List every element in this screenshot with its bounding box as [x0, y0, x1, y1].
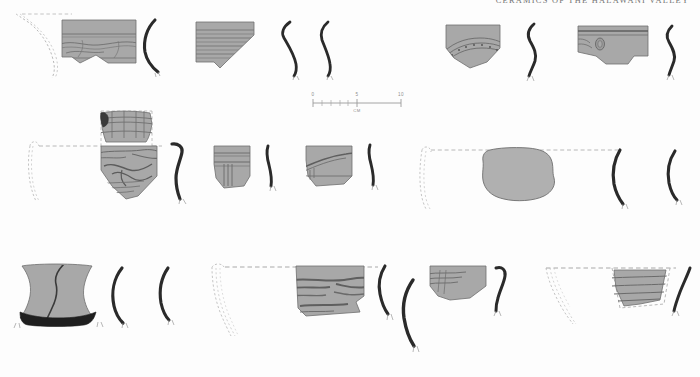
section-profile-4 [667, 26, 675, 80]
section-profile-8b [668, 151, 682, 205]
figure-group-10 [212, 264, 419, 352]
plate-drawing-canvas: 0 5 10 CM [0, 0, 700, 377]
section-profile-10b [403, 280, 419, 352]
sherd-2 [192, 22, 260, 68]
sherd-11 [426, 266, 486, 300]
scale-tick-10: 10 [398, 92, 404, 97]
section-profile-6 [267, 146, 276, 191]
section-profile-3 [527, 24, 536, 81]
figure-group-4 [574, 26, 675, 80]
figure-group-12 [546, 268, 690, 324]
scale-bar: 0 5 10 CM [312, 92, 404, 113]
sherd-6 [210, 146, 254, 190]
sherd-9 [14, 264, 103, 328]
sherd-1 [60, 20, 140, 63]
figure-group-3 [440, 24, 536, 81]
figure-group-11 [426, 266, 505, 316]
section-profile-9a [113, 268, 128, 328]
section-profile-10a [379, 266, 393, 320]
section-profile-5 [172, 144, 186, 204]
section-profile-12 [672, 268, 690, 316]
sherd-8 [483, 148, 555, 201]
figure-group-9 [14, 264, 174, 328]
section-profile-1 [144, 20, 160, 77]
figure-group-8 [420, 147, 682, 209]
section-profile-2a [283, 22, 299, 80]
section-profile-11 [494, 267, 505, 316]
figure-group-5 [29, 111, 187, 204]
scale-unit-label: CM [353, 108, 361, 113]
sherd-12 [610, 270, 668, 306]
scale-tick-0: 0 [312, 92, 315, 97]
figure-group-7 [302, 145, 378, 190]
sherd-7 [302, 146, 358, 186]
figure-group-1 [16, 14, 160, 78]
section-profile-8a [613, 150, 628, 209]
section-profile-9b [160, 268, 174, 325]
ceramic-plate: CERAMICS OF THE HALAWANI VALLEY [0, 0, 700, 377]
sherd-3 [440, 25, 511, 68]
figure-group-2 [192, 22, 333, 80]
section-profile-2b [321, 22, 333, 80]
sherd-5-body-panel [98, 146, 160, 199]
scale-tick-5: 5 [356, 92, 359, 97]
applied-lug [596, 38, 605, 50]
section-profile-7 [369, 145, 378, 190]
sherd-4 [574, 26, 652, 64]
sherd-10 [292, 266, 366, 316]
figure-group-6 [210, 146, 276, 191]
sherd-5-rim-panel [98, 111, 154, 142]
